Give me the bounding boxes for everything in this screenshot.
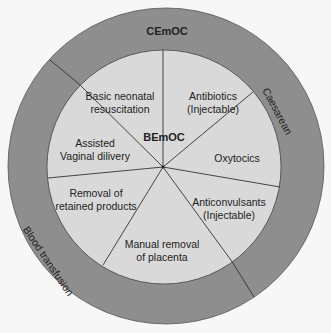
segment-manual-removal-of-placenta: Manual removal of placenta [125, 238, 200, 264]
segment-anticonvulsants: Anticonvulsants (Injectable) [192, 196, 266, 222]
segment-oxytocics: Oxytocics [214, 152, 260, 165]
bemoc-title: BEmOC [143, 131, 185, 144]
segment-assisted-vaginal-delivery: Assisted Vaginal dilivery [60, 137, 130, 163]
segment-removal-of-retained-products: Removal of retained products [55, 187, 136, 213]
segment-basic-neonatal-resuscitation: Basic neonatal resuscitation [86, 90, 155, 116]
cemoc-title: CEmOC [146, 25, 188, 38]
center-dot [162, 166, 165, 169]
emoc-diagram [0, 0, 331, 333]
segment-antibiotics: Antibiotics (Injectable) [187, 90, 239, 116]
